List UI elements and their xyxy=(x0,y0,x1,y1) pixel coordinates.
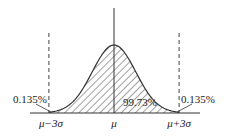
x-tick-label-minus-3-sigma: μ−3σ xyxy=(38,117,63,129)
normal-distribution-chart: 0.135% 99.73% 0.135% μ−3σ μ μ+3σ xyxy=(0,0,227,138)
right-tail-annotation: 0.135% xyxy=(181,93,215,105)
x-tick-label-plus-3-sigma: μ+3σ xyxy=(166,117,191,129)
left-tail-annotation: 0.135% xyxy=(13,93,47,105)
center-annotation: 99.73% xyxy=(123,96,157,108)
x-tick-label-mean: μ xyxy=(110,117,117,129)
